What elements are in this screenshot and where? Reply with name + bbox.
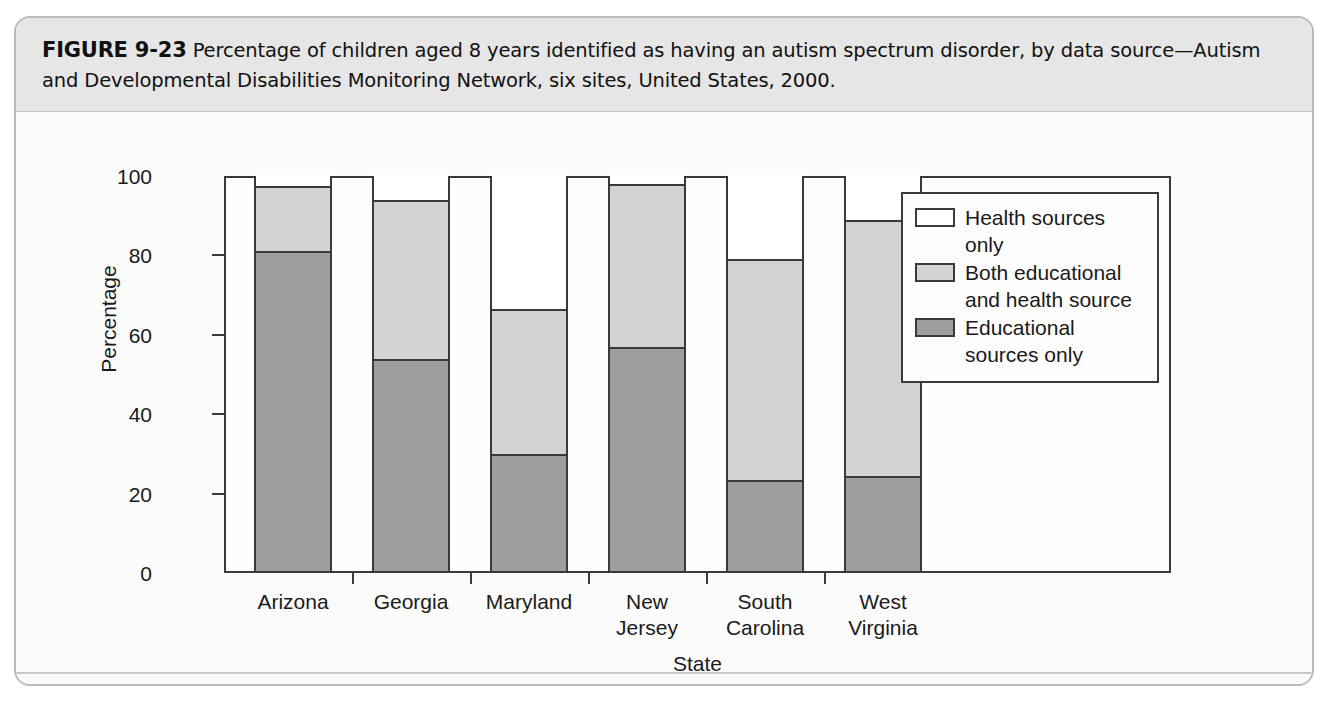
stacked-bar-chart: Percentage 020406080100 State ArizonaGeo… <box>16 112 1314 686</box>
bar-segment-both-sources[interactable] <box>492 309 566 456</box>
bar-segment-both-sources[interactable] <box>374 200 448 361</box>
x-axis-tick-label: WestVirginia <box>808 589 958 641</box>
legend-item[interactable]: Educational sources only <box>915 314 1145 368</box>
y-axis-tick-label: 0 <box>92 562 152 586</box>
figure-number-label: FIGURE 9-23 <box>42 38 187 62</box>
bar-segment-health-sources-only[interactable] <box>492 174 566 309</box>
y-axis-tick-mark <box>212 413 224 415</box>
x-axis-tick-mark <box>588 573 590 584</box>
legend-item[interactable]: Both educational and health source <box>915 259 1145 313</box>
y-axis-tick-label: 20 <box>92 483 152 507</box>
bar-new-jersey[interactable] <box>608 176 686 573</box>
x-axis-tick-mark <box>352 573 354 584</box>
figure-caption: FIGURE 9-23 Percentage of children aged … <box>42 35 1286 96</box>
swatch-both-icon <box>915 263 955 282</box>
bar-segment-health-sources-only[interactable] <box>256 174 330 186</box>
y-axis-tick-mark <box>212 493 224 495</box>
x-axis-tick-label-line: West <box>808 589 958 615</box>
bar-georgia[interactable] <box>372 176 450 573</box>
figure-caption-text: Percentage of children aged 8 years iden… <box>42 39 1260 92</box>
figure-card: FIGURE 9-23 Percentage of children aged … <box>14 16 1314 686</box>
bar-segment-both-sources[interactable] <box>728 259 802 481</box>
bar-segment-educational-sources-only[interactable] <box>256 253 330 571</box>
bar-segment-health-sources-only[interactable] <box>610 174 684 184</box>
y-axis-tick-label: 60 <box>92 324 152 348</box>
swatch-health-only-icon <box>915 208 955 227</box>
bar-segment-educational-sources-only[interactable] <box>728 482 802 571</box>
legend-item-label: Educational sources only <box>965 314 1083 368</box>
bar-segment-health-sources-only[interactable] <box>728 174 802 259</box>
figure-caption-band: FIGURE 9-23 Percentage of children aged … <box>16 18 1312 112</box>
y-axis-tick-mark <box>212 334 224 336</box>
bar-segment-both-sources[interactable] <box>610 184 684 349</box>
y-axis-tick-label: 80 <box>92 244 152 268</box>
bar-arizona[interactable] <box>254 176 332 573</box>
legend-item-label: Health sources only <box>965 204 1145 258</box>
x-axis-tick-mark <box>470 573 472 584</box>
x-axis-tick-mark <box>824 573 826 584</box>
bar-south-carolina[interactable] <box>726 176 804 573</box>
x-axis-tick-mark <box>706 573 708 584</box>
figure-bottom-rule <box>16 672 1312 674</box>
y-axis-tick-label: 100 <box>92 165 152 189</box>
bar-segment-educational-sources-only[interactable] <box>610 349 684 571</box>
bar-segment-health-sources-only[interactable] <box>374 174 448 200</box>
bar-segment-educational-sources-only[interactable] <box>492 456 566 571</box>
figure-plot-body: Percentage 020406080100 State ArizonaGeo… <box>16 112 1312 686</box>
bar-segment-both-sources[interactable] <box>256 186 330 253</box>
bar-maryland[interactable] <box>490 176 568 573</box>
swatch-educational-only-icon <box>915 318 955 337</box>
y-axis-tick-mark <box>212 254 224 256</box>
legend-item[interactable]: Health sources only <box>915 204 1145 258</box>
bar-segment-educational-sources-only[interactable] <box>846 478 920 571</box>
bar-segment-educational-sources-only[interactable] <box>374 361 448 571</box>
chart-legend: Health sources onlyBoth educational and … <box>901 192 1159 383</box>
y-axis-tick-label: 40 <box>92 403 152 427</box>
legend-item-label: Both educational and health source <box>965 259 1132 313</box>
x-axis-tick-label-line: Virginia <box>808 615 958 641</box>
